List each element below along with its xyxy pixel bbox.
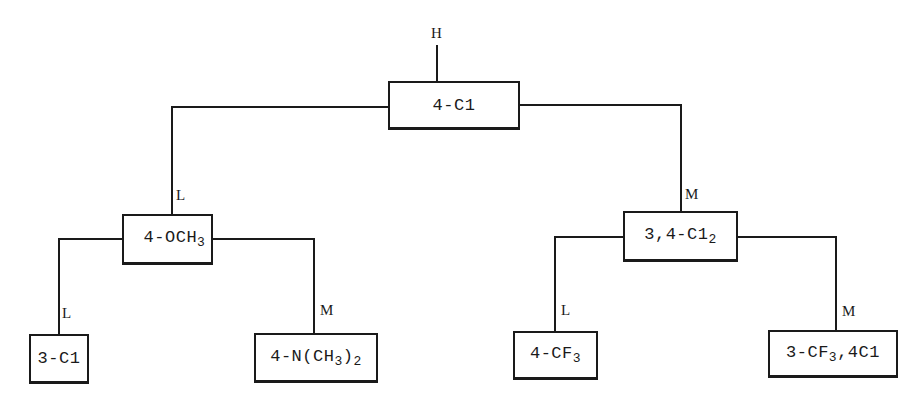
node-text: 4-N(CH — [270, 347, 334, 366]
edge-label-l-m: M — [320, 303, 333, 318]
node-subscript: 2 — [353, 354, 361, 369]
node-label: 3-CF3,4C1 — [786, 343, 880, 365]
node-root-4-cl: 4-C1 — [388, 81, 520, 130]
node-text: 4-C1 — [433, 96, 476, 115]
node-4-cf3: 4-CF3 — [513, 331, 598, 380]
node-text: ,4C1 — [837, 343, 880, 362]
node-3-cl: 3-C1 — [29, 334, 89, 384]
node-4-n-ch3-2: 4-N(CH3)2 — [254, 333, 378, 383]
node-label: 4-C1 — [433, 96, 476, 115]
node-subscript: 3 — [197, 235, 205, 250]
node-label: 3,4-C12 — [644, 225, 717, 247]
edge-label-root-l: L — [176, 188, 185, 203]
node-text: 4-CF — [530, 344, 573, 363]
node-4-och3: 4-OCH3 — [122, 214, 213, 265]
node-text: 3-CF — [786, 343, 829, 362]
edge-label-l-l: L — [62, 306, 71, 321]
node-3-cf3-4-cl: 3-CF3,4C1 — [768, 330, 898, 378]
node-label: 4-OCH3 — [144, 228, 206, 250]
edge-label-m-l: L — [561, 303, 570, 318]
edge-label-m-m: M — [842, 304, 855, 319]
node-text: ) — [343, 347, 354, 366]
node-label: 4-CF3 — [530, 344, 581, 366]
node-subscript: 2 — [708, 232, 716, 247]
node-label: 4-N(CH3)2 — [270, 347, 362, 369]
node-text: 3,4-C1 — [644, 225, 708, 244]
decision-tree-diagram: H L M L M L M 4-C1 4-OCH3 3,4-C12 3-C1 4… — [0, 0, 922, 405]
node-3-4-cl2: 3,4-C12 — [623, 211, 738, 262]
node-label: 3-C1 — [38, 349, 81, 368]
node-text: 4-OCH — [144, 228, 198, 247]
node-text: 3-C1 — [38, 349, 81, 368]
node-subscript: 3 — [573, 351, 581, 366]
edge-label-root-m: M — [685, 187, 698, 202]
node-subscript: 3 — [829, 350, 837, 365]
node-subscript: 3 — [334, 354, 342, 369]
root-input-label: H — [431, 26, 442, 41]
